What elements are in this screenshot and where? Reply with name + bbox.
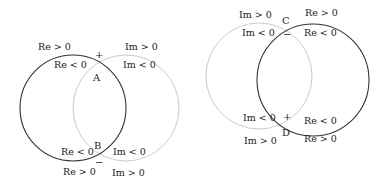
- sign-top: +: [95, 49, 103, 60]
- point-d: D: [282, 127, 290, 138]
- label-re-lt0-top: Re < 0: [304, 27, 337, 38]
- label-re-gt0-top: Re > 0: [38, 41, 71, 52]
- label-re-lt0-bottom: Re < 0: [304, 115, 337, 126]
- sign-bottom: −: [95, 157, 103, 168]
- point-c: C: [282, 15, 290, 26]
- point-a: A: [92, 72, 101, 83]
- label-re-gt0-bottom: Re > 0: [63, 166, 96, 177]
- left-diagram: Re > 0 Re < 0 Im > 0 Im < 0 + A B − Re <…: [20, 41, 179, 178]
- label-re-gt0-top: Re > 0: [305, 7, 338, 18]
- contour-diagram: Re > 0 Re < 0 Im > 0 Im < 0 + A B − Re <…: [0, 0, 381, 184]
- label-re-lt0-top: Re < 0: [54, 59, 87, 70]
- label-re-gt0-bottom: Re > 0: [304, 133, 337, 144]
- label-im-gt0-top: Im > 0: [239, 9, 272, 20]
- label-re-lt0-bottom: Re < 0: [61, 146, 94, 157]
- label-im-lt0-top: Im < 0: [123, 59, 156, 70]
- label-im-gt0-bottom: Im > 0: [112, 167, 145, 178]
- label-im-lt0-bottom: Im < 0: [243, 112, 276, 123]
- right-diagram: Im > 0 Im < 0 Re > 0 Re < 0 C − + D Im <…: [206, 7, 369, 146]
- sign-top: −: [283, 29, 291, 40]
- label-im-gt0-bottom: Im > 0: [244, 135, 277, 146]
- label-im-lt0-top: Im < 0: [242, 27, 275, 38]
- label-im-gt0-top: Im > 0: [125, 41, 158, 52]
- label-im-lt0-bottom: Im < 0: [113, 146, 146, 157]
- sign-bottom: +: [283, 111, 291, 122]
- point-b: B: [94, 140, 101, 151]
